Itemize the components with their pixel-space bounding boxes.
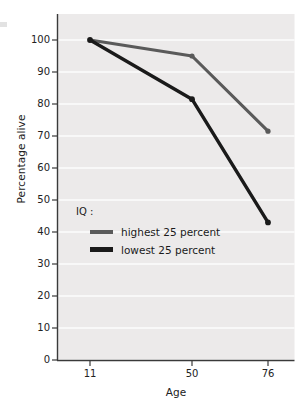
legend-swatch-lowest-25-percent — [90, 247, 113, 252]
legend-label-lowest-25-percent: lowest 25 percent — [121, 244, 215, 256]
y-tick-40: 40 — [0, 227, 50, 237]
legend: IQ : highest 25 percent lowest 25 percen… — [76, 206, 266, 261]
x-tick-11: 11 — [70, 368, 110, 379]
y-tick-90: 90 — [0, 67, 50, 77]
y-axis-title: Percentage alive — [15, 99, 27, 219]
line-chart: 0 10 20 30 40 50 60 70 80 90 100 11 50 7… — [0, 0, 306, 418]
y-axis-ticks — [52, 40, 58, 360]
y-tick-100: 100 — [0, 35, 50, 45]
x-axis-ticks — [90, 361, 268, 367]
legend-item-lowest-25-percent: lowest 25 percent — [76, 243, 266, 256]
legend-swatch-highest-25-percent — [90, 230, 113, 234]
legend-title: IQ : — [76, 206, 266, 217]
y-tick-20: 20 — [0, 291, 50, 301]
legend-item-highest-25-percent: highest 25 percent — [76, 225, 266, 238]
x-axis-title: Age — [57, 386, 295, 398]
legend-label-highest-25-percent: highest 25 percent — [121, 226, 220, 238]
y-tick-0: 0 — [0, 355, 50, 365]
x-tick-50: 50 — [172, 368, 212, 379]
x-tick-76: 76 — [248, 368, 288, 379]
plot-background — [58, 14, 295, 360]
y-tick-30: 30 — [0, 259, 50, 269]
y-tick-10: 10 — [0, 323, 50, 333]
